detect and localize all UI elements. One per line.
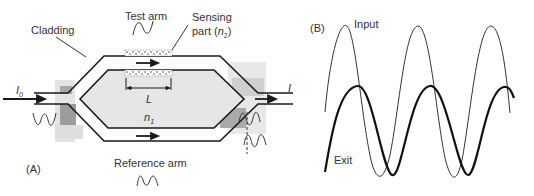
sensing-label-line2: part (n2) [192,25,231,42]
input-curve-label: Input [354,18,378,30]
exit-curve-label: Exit [334,154,352,166]
sensing-label-line1: Sensing [192,11,232,23]
output-intensity-label: I [288,82,291,94]
input-wave-icon [33,113,56,125]
cladding-label: Cladding [31,24,74,36]
core-index-label: n1 [144,111,154,128]
input-intensity-label: I0 [16,84,23,101]
inner-core-region [80,70,244,128]
sensing-close-paren: ) [228,25,232,37]
test-arm-label: Test arm [125,10,167,22]
exit-wave-curve [325,86,514,175]
sensing-part-text: part ( [192,25,218,37]
panel-b-label: (B) [310,22,325,34]
input-intensity-subscript: 0 [19,91,23,98]
panel-a-label: (A) [26,163,41,175]
mach-zehnder-diagram [0,0,534,196]
reference-arm-wave-icon [137,176,158,186]
sensing-pointer [172,25,188,50]
length-label: L [146,93,152,105]
cladding-pointer [56,37,86,57]
reference-arm-label: Reference arm [114,157,187,169]
panel-b-plot [325,25,514,177]
test-arm-wave-icon [133,21,153,35]
core-index-subscript: 1 [150,118,154,125]
